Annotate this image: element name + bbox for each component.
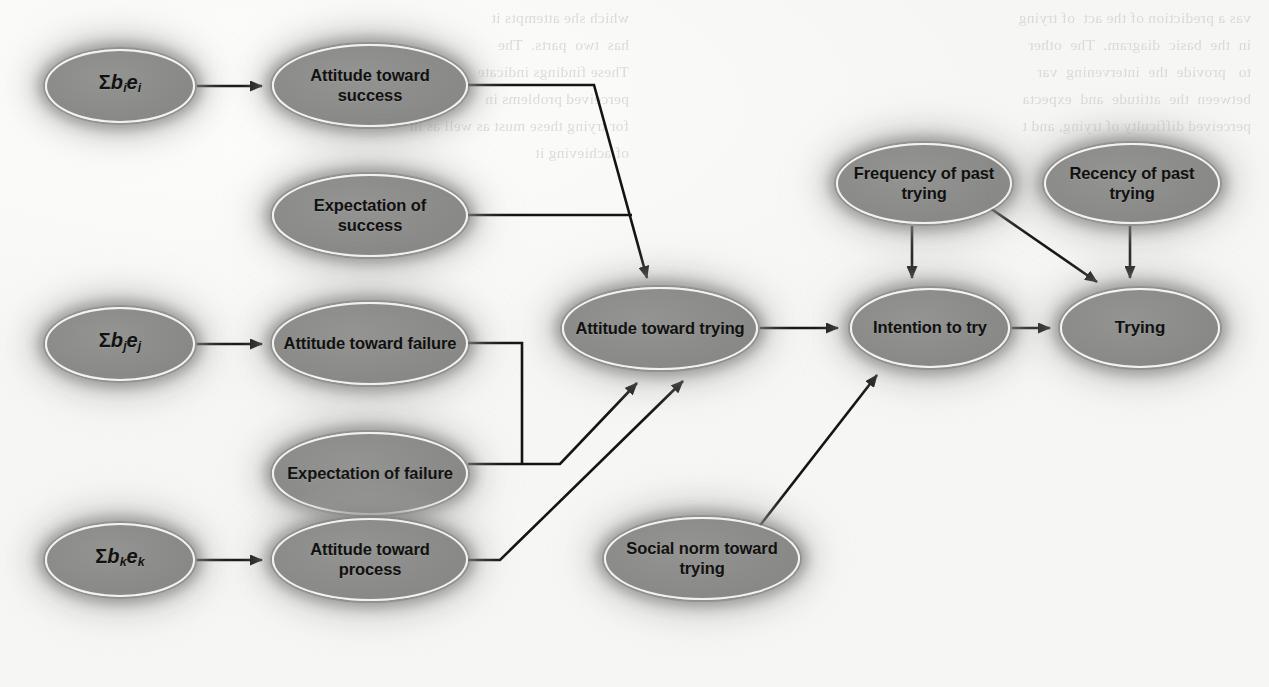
diagram-canvas: vas a prediction of the act of trying in… [0, 0, 1269, 687]
node-label: Attitude toward failure [278, 334, 463, 354]
node-attitude-toward-trying[interactable]: Attitude toward trying [562, 287, 758, 370]
node-label: Σbjej [93, 331, 148, 356]
edge-social_norm-intention [758, 375, 877, 528]
node-sum-bj-ej[interactable]: Σbjej [45, 307, 195, 381]
node-recency-of-past-trying[interactable]: Recency of past trying [1044, 143, 1220, 224]
node-label: Frequency of past trying [838, 164, 1010, 203]
node-label: Attitude toward process [274, 540, 466, 579]
node-label: Attitude toward trying [569, 319, 750, 339]
edge-freq_past-trying [990, 208, 1097, 282]
node-expectation-of-failure[interactable]: Expectation of failure [272, 432, 468, 515]
node-label: Expectation of failure [281, 464, 459, 484]
node-trying[interactable]: Trying [1060, 288, 1220, 368]
edge-att_failure-att_trying [468, 343, 522, 464]
node-attitude-toward-success[interactable]: Attitude toward success [272, 44, 468, 127]
node-sum-bi-ei[interactable]: Σbiei [45, 49, 195, 123]
node-label: Intention to try [867, 318, 993, 338]
node-attitude-toward-process[interactable]: Attitude toward process [272, 518, 468, 601]
node-attitude-toward-failure[interactable]: Attitude toward failure [272, 302, 468, 385]
node-label: Expectation of success [274, 196, 466, 235]
node-expectation-of-success[interactable]: Expectation of success [272, 174, 468, 257]
node-label: Recency of past trying [1046, 164, 1218, 203]
node-label: Σbkek [89, 547, 150, 572]
edge-att_success-att_trying [468, 85, 647, 278]
node-social-norm-toward-trying[interactable]: Social norm toward trying [604, 517, 800, 600]
node-label: Trying [1109, 318, 1171, 338]
node-label: Attitude toward success [274, 66, 466, 105]
node-frequency-of-past-trying[interactable]: Frequency of past trying [836, 143, 1012, 224]
node-label: Σbiei [93, 73, 148, 98]
node-label: Social norm toward trying [606, 539, 798, 578]
node-sum-bk-ek[interactable]: Σbkek [45, 523, 195, 597]
node-intention-to-try[interactable]: Intention to try [850, 288, 1010, 368]
